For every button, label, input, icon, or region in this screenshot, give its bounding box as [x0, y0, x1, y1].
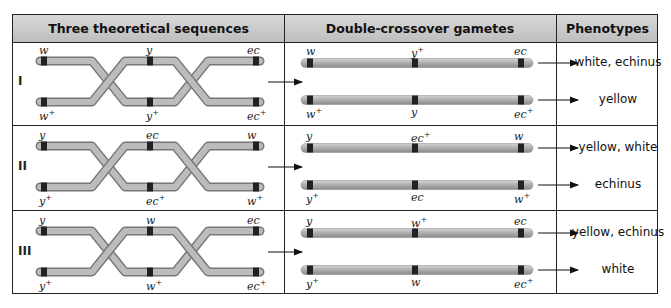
allele-label: w+ — [514, 191, 530, 206]
gene-band — [147, 142, 153, 151]
allele-label: ec+ — [514, 276, 533, 291]
gene-band — [412, 59, 418, 68]
allele-label: w+ — [411, 215, 427, 230]
gene-band — [518, 59, 524, 68]
gene-band — [253, 268, 259, 277]
allele-label: y — [306, 215, 312, 228]
allele-label: ec — [247, 44, 260, 57]
allele-label: ec+ — [247, 278, 266, 293]
allele-label: y+ — [146, 108, 159, 123]
chromatid — [40, 61, 260, 102]
allele-label: ec — [247, 214, 260, 227]
gene-band — [307, 96, 313, 105]
allele-label: w — [411, 276, 420, 289]
sequence-number: I — [18, 74, 22, 88]
gene-band — [147, 183, 153, 192]
allele-label: ec+ — [514, 106, 533, 121]
gene-band — [412, 229, 418, 238]
gene-band — [41, 183, 47, 192]
gene-band — [253, 57, 259, 66]
gene-band — [41, 142, 47, 151]
gene-band — [41, 268, 47, 277]
gene-band — [41, 227, 47, 236]
phenotype-label: yellow, echinus — [568, 225, 668, 239]
allele-label: w+ — [247, 193, 263, 208]
gene-band — [307, 266, 313, 275]
gene-band — [147, 268, 153, 277]
allele-label: ec — [514, 215, 527, 228]
allele-label: w — [146, 214, 155, 227]
chromatid — [40, 61, 260, 102]
allele-label: ec+ — [247, 108, 266, 123]
allele-label: y — [146, 44, 152, 57]
gene-band — [518, 229, 524, 238]
gene-band — [253, 227, 259, 236]
chromatid — [40, 231, 260, 272]
allele-label: y+ — [39, 193, 52, 208]
gene-band — [518, 181, 524, 190]
gene-band — [41, 57, 47, 66]
gene-band — [412, 266, 418, 275]
gene-band — [253, 183, 259, 192]
gene-band — [253, 98, 259, 107]
allele-label: ec+ — [411, 130, 430, 145]
phenotype-label: yellow, white — [568, 140, 668, 154]
allele-label: ec — [411, 191, 424, 204]
gene-band — [147, 57, 153, 66]
allele-label: y — [411, 106, 417, 119]
allele-label: w+ — [39, 108, 55, 123]
gene-band — [518, 96, 524, 105]
phenotype-label: white — [568, 262, 668, 276]
allele-label: w+ — [306, 106, 322, 121]
gene-band — [412, 181, 418, 190]
phenotype-label: white, echinus — [568, 55, 668, 69]
allele-label: ec — [514, 45, 527, 58]
chromatid — [40, 146, 260, 187]
allele-label: ec+ — [146, 193, 165, 208]
gene-band — [41, 98, 47, 107]
allele-label: y+ — [306, 191, 319, 206]
gene-band — [412, 144, 418, 153]
gene-band — [412, 96, 418, 105]
allele-label: y — [306, 130, 312, 143]
chromatid — [40, 146, 260, 187]
allele-label: w — [247, 129, 256, 142]
allele-label: y+ — [306, 276, 319, 291]
gene-band — [307, 144, 313, 153]
phenotype-label: echinus — [568, 177, 668, 191]
gene-band — [518, 266, 524, 275]
allele-label: y+ — [411, 45, 424, 60]
allele-label: w — [306, 45, 315, 58]
allele-label: w — [514, 130, 523, 143]
gene-band — [147, 98, 153, 107]
gene-band — [307, 181, 313, 190]
gene-band — [307, 229, 313, 238]
chromatid — [40, 231, 260, 272]
allele-label: w — [39, 44, 48, 57]
gene-band — [253, 142, 259, 151]
sequence-number: III — [18, 244, 31, 258]
gene-band — [147, 227, 153, 236]
gene-band — [518, 144, 524, 153]
gene-band — [307, 59, 313, 68]
allele-label: ec — [146, 129, 159, 142]
allele-label: y — [39, 214, 45, 227]
phenotype-label: yellow — [568, 92, 668, 106]
allele-label: y — [39, 129, 45, 142]
allele-label: y+ — [39, 278, 52, 293]
sequence-number: II — [18, 159, 27, 173]
allele-label: w+ — [146, 278, 162, 293]
